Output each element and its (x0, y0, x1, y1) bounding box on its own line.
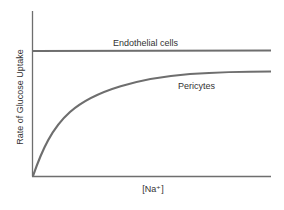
chart: Endothelial cells Pericytes [Na⁺] Rate o… (0, 0, 284, 210)
series-endothelial-line (32, 51, 271, 52)
x-axis-label: [Na⁺] (142, 184, 164, 194)
label-pericytes: Pericytes (178, 81, 216, 91)
series-pericytes-line (33, 72, 271, 177)
y-axis-label: Rate of Glucose Uptake (15, 49, 25, 145)
label-endothelial: Endothelial cells (113, 38, 179, 48)
